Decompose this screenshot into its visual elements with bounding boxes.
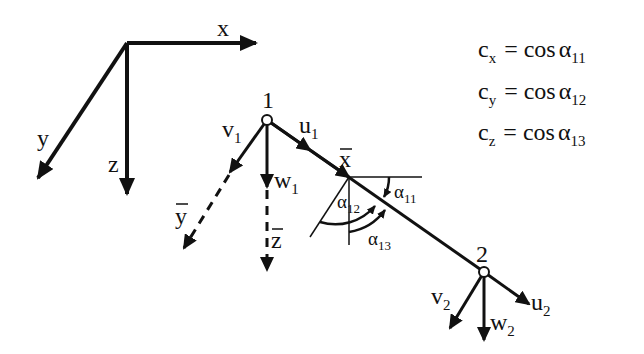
global-axes: x y z	[37, 15, 256, 194]
node-1-dofs	[184, 115, 349, 270]
cz-alpha: α	[558, 119, 571, 145]
v1-label: v1	[222, 116, 242, 146]
alpha-11-arc	[384, 177, 389, 197]
y-bar-axis-dashed	[184, 175, 229, 248]
w2-label: w2	[490, 309, 515, 339]
cx-lhs-sub: x	[489, 50, 497, 66]
alpha-11-base: α	[394, 181, 404, 202]
u2-label: u2	[531, 289, 551, 319]
alpha-12-sub: 12	[347, 201, 360, 216]
u2-arrow	[484, 272, 529, 304]
v2-sub: 2	[443, 297, 451, 313]
node-2-label: 2	[476, 241, 488, 267]
x-bar-label: x	[339, 146, 351, 172]
cz-alpha-sub: 13	[570, 133, 585, 149]
v2-label: v2	[431, 283, 451, 313]
cx-cos: cos	[524, 36, 556, 62]
equation-cy: cy=cosα12	[478, 78, 586, 108]
global-z-label: z	[108, 151, 119, 177]
cz-op: =	[503, 119, 517, 145]
w1-sub: 1	[291, 181, 299, 197]
w1-base: w	[274, 167, 292, 193]
alpha-12-base: α	[337, 191, 347, 212]
direction-cosine-equations: cx=cosα11 cy=cosα12 cz=cosα13	[478, 36, 586, 149]
alpha-13-sub: 13	[378, 238, 391, 253]
cx-lhs: c	[478, 36, 489, 62]
v1-arrow	[230, 120, 267, 172]
v1-sub: 1	[234, 130, 242, 146]
cx-op: =	[504, 36, 518, 62]
alpha-13-base: α	[368, 228, 378, 249]
z-bar-label: z	[271, 227, 282, 253]
x-bar-label-group: x	[339, 146, 352, 172]
cy-lhs-sub: y	[489, 92, 497, 108]
w2-sub: 2	[507, 323, 515, 339]
cy-alpha: α	[559, 78, 572, 104]
node-1-label: 1	[262, 87, 274, 113]
u1-sub: 1	[311, 126, 319, 142]
w1-label: w1	[274, 167, 299, 197]
u2-base: u	[531, 289, 543, 315]
node-1-marker	[262, 115, 272, 125]
node-2-marker	[479, 267, 489, 277]
global-y-label: y	[37, 125, 49, 151]
global-x-label: x	[217, 15, 229, 41]
cx-alpha: α	[559, 36, 572, 62]
y-bar-label: y	[175, 203, 187, 229]
u1-base: u	[299, 112, 311, 138]
v2-base: v	[431, 283, 443, 309]
cy-lhs: c	[478, 78, 489, 104]
u1-label: u1	[299, 112, 319, 142]
cz-lhs-sub: z	[489, 133, 496, 149]
alpha-11-sub: 11	[404, 191, 417, 206]
equation-cx: cx=cosα11	[478, 36, 586, 66]
equation-cz: cz=cosα13	[478, 119, 585, 149]
alpha-13-label: α13	[368, 228, 391, 253]
z-bar-label-group: z	[271, 227, 283, 253]
v2-arrow	[450, 272, 484, 328]
alpha-11-label: α11	[394, 181, 417, 206]
cy-op: =	[504, 78, 518, 104]
u2-sub: 2	[543, 303, 551, 319]
y-bar-label-group: y	[175, 203, 188, 229]
space-frame-diagram: x y z 1 v1 u1 w1 x y z α11 α12	[0, 0, 644, 354]
cz-cos: cos	[523, 119, 555, 145]
w2-base: w	[490, 309, 508, 335]
angle-construction	[310, 177, 422, 245]
cy-cos: cos	[524, 78, 556, 104]
cy-alpha-sub: 12	[571, 92, 586, 108]
cx-alpha-sub: 11	[571, 50, 585, 66]
cz-lhs: c	[478, 119, 489, 145]
v1-base: v	[222, 116, 234, 142]
